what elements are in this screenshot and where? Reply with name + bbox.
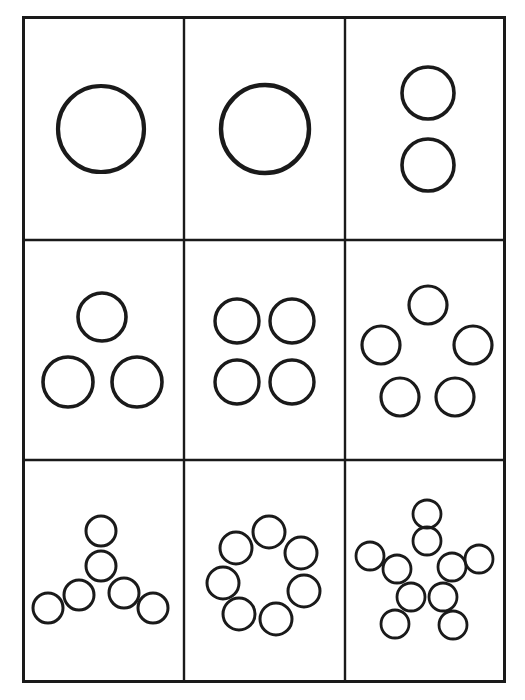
pattern-grid-figure [0,0,525,700]
worksheet-page [0,0,525,700]
page-background [0,0,525,700]
